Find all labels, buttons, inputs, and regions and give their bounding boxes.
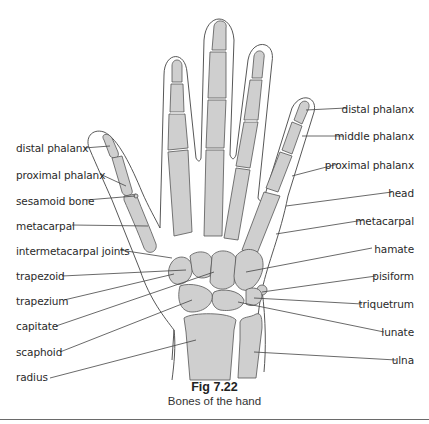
label-trapezium: trapezium <box>16 295 68 307</box>
label-right-distal-phalanx: distal phalanx <box>342 103 414 115</box>
label-intermetacarpal-joints: intermetacarpal joints <box>16 245 130 257</box>
label-trapezoid: trapezoid <box>16 270 65 282</box>
label-right-metacarpal: metacarpal <box>355 215 414 227</box>
radius <box>184 314 236 380</box>
capitate <box>210 251 236 289</box>
label-sesamoid-bone: sesamoid bone <box>16 195 94 207</box>
label-hamate: hamate <box>374 243 414 255</box>
ulna <box>238 314 262 378</box>
label-middle-phalanx: middle phalanx <box>334 130 414 142</box>
label-right-proximal-phalanx: proximal phalanx <box>325 159 414 171</box>
hand-skeleton-illustration <box>0 0 429 424</box>
middle-distal-phalanx <box>212 21 226 50</box>
index-proximal-phalanx <box>168 114 188 150</box>
little-middle-phalanx <box>282 122 302 154</box>
label-capitate: capitate <box>16 320 58 332</box>
label-ulna: ulna <box>392 354 414 366</box>
little-proximal-phalanx <box>266 152 292 192</box>
scaphoid <box>179 284 213 312</box>
label-left-distal-phalanx: distal phalanx <box>16 142 88 154</box>
ring-metacarpal <box>224 168 250 240</box>
label-scaphoid: scaphoid <box>16 346 62 358</box>
ring-distal-phalanx <box>252 51 264 78</box>
middle-middle-phalanx <box>208 52 226 98</box>
thumb-proximal-phalanx <box>112 156 132 196</box>
label-pisiform: pisiform <box>372 270 414 282</box>
lunate <box>212 290 244 310</box>
figure-number: Fig 7.22 <box>0 380 429 394</box>
hand-bones-figure: distal phalanx proximal phalanx sesamoid… <box>0 0 429 424</box>
index-distal-phalanx <box>172 60 182 82</box>
figure-caption: Bones of the hand <box>0 395 429 407</box>
index-metacarpal <box>168 150 192 236</box>
bottom-divider <box>0 419 429 420</box>
middle-proximal-phalanx <box>206 100 226 148</box>
label-triquetrum: triquetrum <box>359 298 414 310</box>
label-left-metacarpal: metacarpal <box>16 220 75 232</box>
little-distal-phalanx <box>294 101 309 124</box>
label-head: head <box>388 187 414 199</box>
label-left-proximal-phalanx: proximal phalanx <box>16 169 105 181</box>
ring-middle-phalanx <box>244 80 262 120</box>
index-middle-phalanx <box>170 84 184 112</box>
label-lunate: lunate <box>381 326 414 338</box>
middle-metacarpal <box>204 150 224 236</box>
thumb-metacarpal <box>124 194 156 252</box>
